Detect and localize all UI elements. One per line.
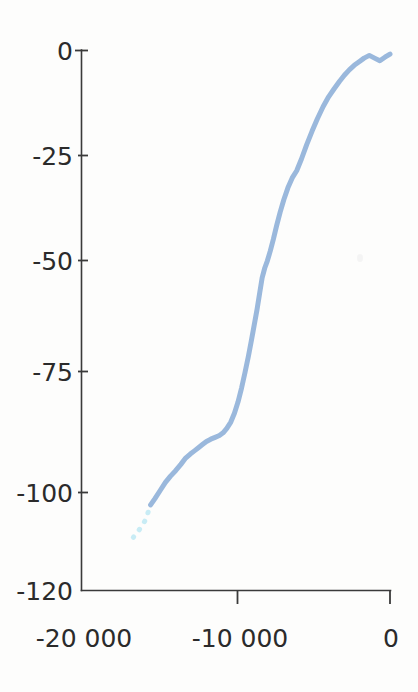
x-tick-label-0: 0 (383, 624, 399, 653)
y-tick-label-minus25: -25 (32, 142, 73, 171)
y-tick-label-minus50: -50 (32, 247, 73, 276)
x-tick-label-minus20000: -20 000 (36, 624, 133, 653)
x-tick-label-minus10000: -10 000 (192, 624, 289, 653)
sea-level-curve-solid (151, 54, 390, 505)
line-chart: 0 -25 -50 -75 -100 -120 -20 000 -10 000 … (0, 0, 418, 692)
y-tick-label-minus100: -100 (16, 479, 73, 508)
scan-artifact-smudge (357, 254, 363, 262)
y-tick-label-minus75: -75 (32, 358, 73, 387)
chart-container: 0 -25 -50 -75 -100 -120 -20 000 -10 000 … (0, 0, 418, 692)
x-axis-ticks (238, 590, 391, 604)
data-series-layer (133, 54, 390, 537)
y-tick-label-minus120: -120 (16, 577, 73, 606)
sea-level-curve-dotted-extension (133, 505, 150, 537)
y-tick-label-0: 0 (57, 37, 73, 66)
